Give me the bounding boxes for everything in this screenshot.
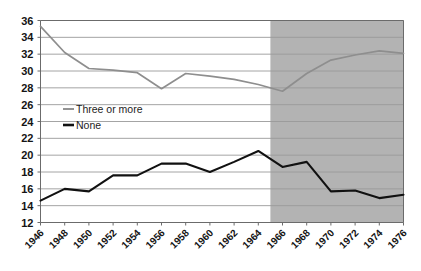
xtick-labels-layer: 1946194819501952195419561958196019621964… (22, 223, 409, 251)
legend-label: Three or more (76, 103, 143, 115)
xtick-label: 1948 (47, 227, 71, 251)
ytick-labels-layer: 12141618202224262830323436 (21, 15, 40, 229)
ytick-label: 28 (21, 82, 33, 94)
chart-container: 12141618202224262830323436 1946194819501… (0, 0, 421, 271)
ytick-label: 16 (21, 183, 33, 195)
ytick-label: 32 (21, 48, 33, 60)
ytick-label: 18 (21, 166, 33, 178)
ytick-label: 22 (21, 132, 33, 144)
xtick-label: 1962 (216, 227, 240, 251)
xtick-label: 1950 (71, 227, 95, 251)
xtick-label: 1968 (289, 227, 313, 251)
xtick-label: 1946 (22, 227, 46, 251)
ytick-label: 12 (21, 217, 33, 229)
legend-layer: Three or moreNone (63, 103, 143, 131)
xtick-label: 1976 (385, 227, 409, 251)
ytick-label: 34 (21, 31, 34, 43)
xtick-label: 1974 (361, 227, 385, 251)
xtick-label: 1972 (337, 227, 361, 251)
ytick-label: 36 (21, 15, 33, 27)
line-chart: 12141618202224262830323436 1946194819501… (0, 0, 421, 271)
xtick-label: 1956 (143, 227, 167, 251)
ytick-label: 20 (21, 149, 33, 161)
xtick-label: 1966 (264, 227, 288, 251)
ytick-label: 24 (21, 116, 34, 128)
xtick-label: 1958 (168, 227, 192, 251)
xtick-label: 1960 (192, 227, 216, 251)
xtick-label: 1952 (95, 227, 119, 251)
legend-label: None (76, 119, 101, 131)
ytick-label: 14 (21, 200, 34, 212)
xtick-label: 1964 (240, 227, 264, 251)
ytick-label: 26 (21, 99, 33, 111)
xtick-label: 1954 (119, 227, 143, 251)
xtick-label: 1970 (313, 227, 337, 251)
ytick-label: 30 (21, 65, 33, 77)
